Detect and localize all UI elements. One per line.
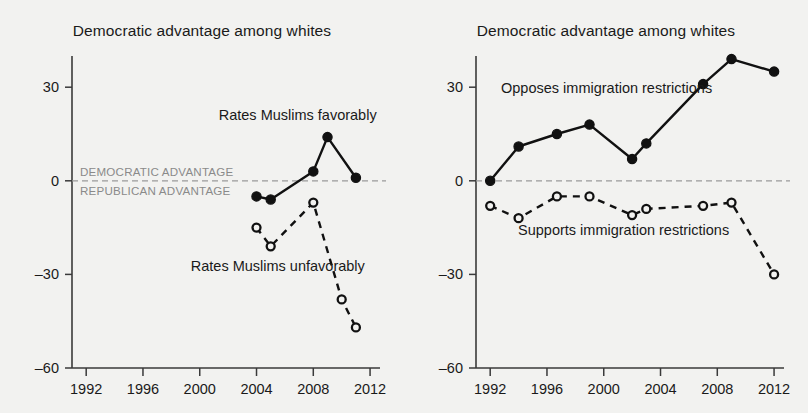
x-tick-label: 1992 — [474, 381, 506, 397]
y-tick-label: 30 — [43, 79, 59, 95]
data-point-filled — [323, 133, 332, 142]
chart-panel-left: Democratic advantage among whites 300–30… — [0, 0, 404, 413]
x-tick-label: 2012 — [354, 381, 386, 397]
data-point-open — [699, 202, 707, 210]
series-annotation-2: Rates Muslims unfavorably — [191, 258, 366, 274]
data-point-open — [309, 199, 317, 207]
data-point-open — [338, 295, 346, 303]
y-tick-label: –60 — [439, 360, 463, 376]
data-point-filled — [266, 195, 275, 204]
x-tick-label: 2000 — [588, 381, 620, 397]
chart-panel-right: Democratic advantage among whites 300–30… — [404, 0, 808, 413]
y-tick-label: 30 — [447, 79, 463, 95]
data-point-open — [770, 270, 778, 278]
data-point-open — [728, 199, 736, 207]
x-tick-label: 2004 — [240, 381, 272, 397]
x-tick-label: 2012 — [758, 381, 790, 397]
figure-root: Democratic advantage among whites 300–30… — [0, 0, 808, 413]
republican-advantage-note: REPUBLICAN ADVANTAGE — [80, 184, 231, 197]
data-point-filled — [252, 192, 261, 201]
data-point-open — [267, 242, 275, 250]
y-tick-label: 0 — [455, 173, 463, 189]
x-tick-label: 1992 — [70, 381, 102, 397]
y-tick-label: 0 — [51, 173, 59, 189]
data-point-filled — [552, 129, 561, 138]
data-point-filled — [642, 139, 651, 148]
x-tick-label: 1996 — [531, 381, 563, 397]
y-tick-label: –60 — [35, 360, 59, 376]
x-tick-label: 2008 — [297, 381, 329, 397]
data-point-filled — [514, 142, 523, 151]
x-tick-label: 2000 — [184, 381, 216, 397]
data-point-filled — [628, 154, 637, 163]
democratic-advantage-note: DEMOCRATIC ADVANTAGE — [80, 165, 234, 178]
data-point-open — [253, 224, 261, 232]
y-tick-label: –30 — [439, 266, 463, 282]
data-point-filled — [309, 167, 318, 176]
data-point-open — [515, 214, 523, 222]
data-point-filled — [486, 176, 495, 185]
data-point-open — [553, 192, 561, 200]
x-tick-label: 2004 — [644, 381, 676, 397]
y-tick-label: –30 — [35, 266, 59, 282]
series-annotation-1: Opposes immigration restrictions — [501, 80, 712, 96]
data-point-open — [628, 211, 636, 219]
data-point-open — [642, 205, 650, 213]
x-tick-label: 1996 — [127, 381, 159, 397]
data-point-filled — [351, 173, 360, 182]
data-point-filled — [585, 120, 594, 129]
plot-left: 300–30–60199219962000200420082012DEMOCRA… — [0, 0, 404, 413]
data-point-open — [352, 323, 360, 331]
data-point-filled — [770, 67, 779, 76]
data-point-open — [486, 202, 494, 210]
data-point-open — [586, 192, 594, 200]
plot-right: 300–30–60199219962000200420082012Opposes… — [404, 0, 808, 413]
data-point-filled — [727, 55, 736, 64]
series-annotation-2: Supports immigration restrictions — [518, 222, 729, 238]
x-tick-label: 2008 — [701, 381, 733, 397]
series-annotation-1: Rates Muslims favorably — [219, 107, 378, 123]
series-line-1 — [257, 137, 356, 199]
